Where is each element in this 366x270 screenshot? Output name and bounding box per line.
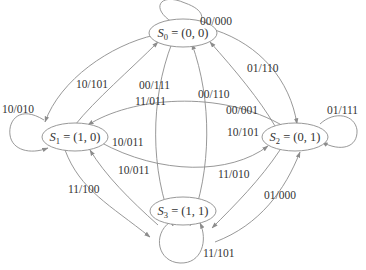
label-s0-self: 00/000 xyxy=(200,15,232,27)
label-s1-s2: 10/011 xyxy=(112,136,144,148)
label-s2-s3: 11/010 xyxy=(218,168,250,180)
label-s3-s0: 00/110 xyxy=(198,88,230,100)
state-diagram: S0 = (0, 0) S1 = (1, 0) S2 = (0, 1) S3 =… xyxy=(0,0,366,270)
label-s1-s3: 11/100 xyxy=(68,183,100,195)
label-s2-self: 01/111 xyxy=(327,104,358,116)
state-s3: S3 = (1, 1) xyxy=(150,197,216,225)
label-s2-s1: 10/101 xyxy=(227,126,259,138)
label-s3-s1: 10/011 xyxy=(118,164,150,176)
label-s0-s1: 10/101 xyxy=(76,78,108,90)
state-s2: S2 = (0, 1) xyxy=(262,123,328,151)
label-s0-s2: 01/110 xyxy=(247,62,279,74)
label-s1-self: 10/010 xyxy=(2,103,34,115)
self-loop-s3 xyxy=(159,222,203,263)
label-s1-s0: 11/011 xyxy=(135,95,166,107)
label-s3-s2: 01/000 xyxy=(264,189,296,201)
state-s1: S1 = (1, 0) xyxy=(42,123,108,151)
self-loop-s1 xyxy=(10,114,48,151)
label-s3-self: 11/101 xyxy=(203,247,235,259)
label-s2-s0: 00/001 xyxy=(226,104,258,116)
label-s0-s3: 00/111 xyxy=(139,79,170,91)
